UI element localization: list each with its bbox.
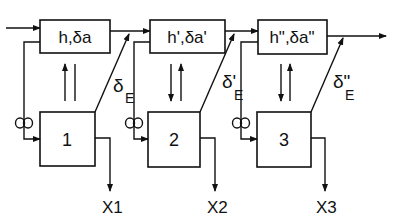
coupling-label-2-sub: E xyxy=(234,87,243,103)
output-label-3: X3 xyxy=(316,198,337,217)
upper-box-2: h',δa' xyxy=(150,20,225,53)
lower-box-1-label: 1 xyxy=(62,130,72,150)
exchange-arrows-2 xyxy=(171,64,181,101)
exchange-arrows-1 xyxy=(65,64,75,101)
output-arrow-2 xyxy=(200,138,215,191)
coupling-label-1-sub: E xyxy=(125,90,134,106)
lower-box-2: 2 xyxy=(148,112,200,167)
lower-box-3-label: 3 xyxy=(279,130,289,150)
output-arrow-3 xyxy=(311,138,325,191)
upper-box-1: h,δa xyxy=(40,20,110,53)
upper-box-2-label: h',δa' xyxy=(167,28,207,47)
lower-box-1: 1 xyxy=(40,112,95,166)
upper-box-3: h",δa" xyxy=(258,20,327,54)
coupling-label-1: δ xyxy=(113,75,124,96)
output-label-2: X2 xyxy=(207,198,228,217)
feedback-loop-1 xyxy=(16,42,41,139)
upper-box-3-label: h",δa" xyxy=(269,28,314,47)
lower-box-3: 3 xyxy=(257,112,311,167)
lower-box-2-label: 2 xyxy=(169,130,179,150)
block-diagram: h,δa h',δa' h",δa" 1 2 3 xyxy=(0,0,393,222)
coupling-label-3-sub: E xyxy=(345,87,354,103)
upper-box-1-label: h,δa xyxy=(58,28,92,47)
output-arrow-1 xyxy=(95,138,110,191)
output-label-1: X1 xyxy=(102,198,123,217)
exchange-arrows-3 xyxy=(281,64,290,101)
